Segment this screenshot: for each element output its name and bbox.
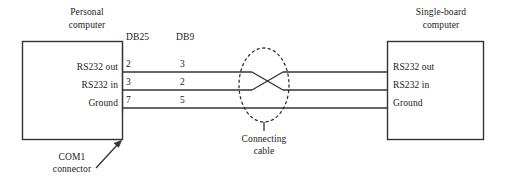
connecting-cable-label-line2: cable — [242, 145, 287, 157]
personal-computer-title-line1: Personal — [69, 6, 106, 19]
db25-column-header: DB25 — [126, 31, 149, 43]
db25-pin-ground: 7 — [126, 94, 131, 106]
left-port-label-ground: Ground — [88, 97, 118, 109]
connecting-cable-label: Connecting cable — [242, 133, 287, 157]
db25-pin-rs232-out: 2 — [126, 58, 131, 70]
connecting-cable-label-line1: Connecting — [242, 133, 287, 145]
db9-pin-rs232-out: 3 — [180, 58, 185, 70]
left-port-label-rs232-out: RS232 out — [77, 61, 118, 73]
db9-column-header: DB9 — [176, 31, 194, 43]
single-board-computer-title-line2: computer — [416, 19, 466, 32]
left-port-label-rs232-in: RS232 in — [82, 79, 118, 91]
com1-connector-label: COM1 connector — [53, 151, 91, 175]
single-board-computer-title: Single-board computer — [416, 6, 466, 32]
right-port-label-rs232-in: RS232 in — [393, 79, 429, 91]
right-port-label-rs232-out: RS232 out — [393, 61, 434, 73]
single-board-computer-title-line1: Single-board — [416, 6, 466, 19]
com1-connector-label-line1: COM1 — [53, 151, 91, 163]
db9-pin-ground: 5 — [180, 94, 185, 106]
db25-pin-rs232-in: 3 — [126, 76, 131, 88]
com1-arrow-shaft — [96, 143, 119, 168]
connecting-cable-highlight-ellipse — [239, 48, 289, 122]
db9-pin-rs232-in: 2 — [180, 76, 185, 88]
personal-computer-title: Personal computer — [69, 6, 106, 32]
personal-computer-title-line2: computer — [69, 19, 106, 32]
right-port-label-ground: Ground — [393, 97, 423, 109]
com1-connector-label-line2: connector — [53, 163, 91, 175]
rs232-connection-diagram: Personal computer Single-board computer … — [0, 0, 505, 181]
